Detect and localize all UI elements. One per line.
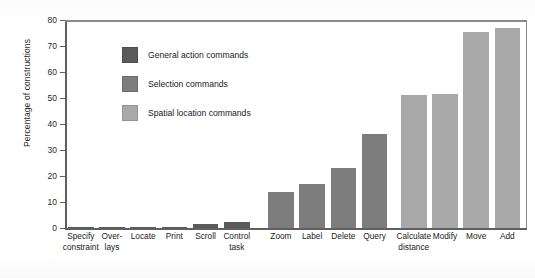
bar [99, 227, 125, 228]
bar [432, 94, 458, 228]
bar [299, 184, 325, 228]
bar-chart: Percentage of constructions 010203040506… [0, 0, 535, 278]
y-tick-label: 40 [48, 119, 57, 129]
y-tick-label: 30 [48, 145, 57, 155]
chart-legend: General action commandsSelection command… [122, 47, 332, 134]
y-tick-label: 0 [52, 223, 57, 233]
bar-slot [99, 20, 125, 228]
x-tick-label: Control task [216, 231, 258, 252]
legend-label: Spatial location commands [148, 108, 251, 118]
bar-slot [68, 20, 94, 228]
bar [362, 134, 388, 228]
bar [401, 95, 427, 228]
bar [162, 227, 188, 228]
bar [268, 192, 294, 228]
bar-slot [432, 20, 458, 228]
bar [331, 168, 357, 228]
legend-color-swatch [122, 105, 138, 121]
legend-item: Spatial location commands [122, 105, 332, 121]
y-tick-label: 80 [48, 15, 57, 25]
bar [224, 222, 250, 229]
x-tick-label: Add [487, 231, 529, 242]
y-tick-label: 50 [48, 93, 57, 103]
y-axis-title: Percentage of constructions [22, 18, 32, 168]
y-tick-label: 60 [48, 67, 57, 77]
legend-item: General action commands [122, 47, 332, 63]
x-tick-label: Query [354, 231, 396, 242]
x-axis-line [65, 228, 527, 230]
y-tick-label: 20 [48, 171, 57, 181]
legend-color-swatch [122, 47, 138, 63]
bar [193, 224, 219, 228]
legend-label: General action commands [148, 50, 248, 60]
bar [463, 32, 489, 228]
bar-slot [495, 20, 521, 228]
x-axis-labels: Specify constraintOver- laysLocatePrintS… [65, 231, 527, 277]
y-tick-label: 70 [48, 41, 57, 51]
y-tick-label: 10 [48, 197, 57, 207]
bar-slot [463, 20, 489, 228]
bar [495, 28, 521, 228]
bar-slot [331, 20, 357, 228]
legend-item: Selection commands [122, 76, 332, 92]
legend-color-swatch [122, 76, 138, 92]
bar [130, 227, 156, 228]
bar-slot [401, 20, 427, 228]
legend-label: Selection commands [148, 79, 228, 89]
y-tick-mark [60, 228, 65, 229]
bar [68, 227, 94, 228]
bar-slot [362, 20, 388, 228]
